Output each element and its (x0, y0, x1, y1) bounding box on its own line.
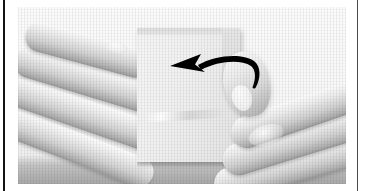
right-column-rule (357, 0, 358, 191)
arrow-head (170, 54, 205, 72)
instructional-photograph (18, 7, 346, 184)
left-hand (18, 25, 153, 184)
figure-root: Two hands holding a folded paper card wi… (0, 0, 369, 191)
arrow-shaft (198, 56, 260, 89)
figure-title: Two hands holding a folded paper card wi… (0, 0, 1, 1)
fold-direction-arrow-icon (168, 45, 264, 101)
left-column-rule (3, 0, 5, 191)
